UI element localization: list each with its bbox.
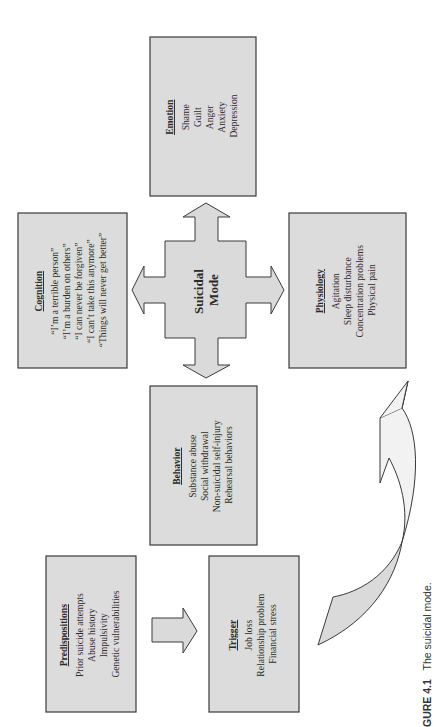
physiology-item: Agitation [330, 273, 341, 309]
curved-cycle-arrow-icon [318, 381, 416, 645]
cognition-item: “Things will never get better” [97, 233, 108, 348]
cognition-item: “I’m a terrible person” [49, 248, 60, 335]
physiology-title: Physiology [314, 269, 325, 313]
emotion-title: Emotion [164, 99, 175, 135]
suicidal-mode-diagram: Emotion Shame Guilt Anger Anxiety Depres… [0, 0, 436, 727]
caption-text: The suicidal mode. [421, 582, 433, 670]
emotion-item: Shame [180, 104, 191, 130]
cognition-box: Cognition “I’m a terrible person” “I’m a… [18, 213, 127, 368]
emotion-item: Anger [204, 104, 215, 129]
behavior-item: Substance abuse [187, 435, 198, 498]
behavior-item: Rehearsal behaviors [223, 426, 234, 504]
trigger-box: Trigger Job loss Relationship problem Fi… [209, 556, 299, 712]
cognition-item: “I can’t take this anymore” [85, 239, 96, 343]
svg-text:GURE 4.1 The suicidal mo: GURE 4.1 The suicidal mode. [421, 582, 433, 727]
trigger-title: Trigger [227, 619, 238, 650]
predispositions-item: Abuse history [86, 608, 97, 662]
cognition-item: “I can never be forgiven” [73, 243, 84, 340]
predispositions-box: Predispositions Prior suicide attempts A… [46, 556, 136, 712]
behavior-box: Behavior Substance abuse Social withdraw… [150, 386, 257, 545]
cognition-title: Cognition [33, 270, 44, 311]
cognition-item: “I’m a burden on others” [61, 243, 72, 339]
behavior-item: Social withdrawal [199, 431, 210, 501]
behavior-item: Non-suicidal self-injury [211, 420, 222, 512]
suicidal-mode-cross-arrow: Suicidal Mode [132, 203, 284, 378]
emotion-item: Guilt [192, 107, 203, 127]
behavior-title: Behavior [171, 447, 182, 485]
predispositions-item: Impulsivity [98, 613, 109, 657]
caption-label: GURE 4.1 [421, 679, 433, 727]
trigger-item: Job loss [243, 620, 254, 651]
center-label-line2: Mode [206, 274, 221, 306]
emotion-box: Emotion Shame Guilt Anger Anxiety Depres… [150, 37, 256, 196]
physiology-item: Physical pain [366, 264, 377, 316]
figure-caption: GURE 4.1 The suicidal mode. [421, 582, 433, 727]
trigger-item: Relationship problem [255, 593, 266, 676]
predispositions-item: Genetic vulnerabilities [110, 590, 121, 677]
physiology-box: Physiology Agitation Sleep disturbance C… [289, 213, 406, 368]
predispositions-item: Prior suicide attempts [74, 593, 85, 677]
center-label-line1: Suicidal [191, 269, 206, 314]
physiology-item: Concentration problems [354, 245, 365, 338]
emotion-item: Depression [228, 94, 239, 137]
trigger-item: Financial stress [267, 604, 278, 664]
physiology-item: Sleep disturbance [342, 257, 353, 325]
predispositions-title: Predispositions [58, 604, 69, 666]
predispositions-to-trigger-arrow-icon [152, 608, 197, 653]
emotion-item: Anxiety [216, 102, 227, 133]
